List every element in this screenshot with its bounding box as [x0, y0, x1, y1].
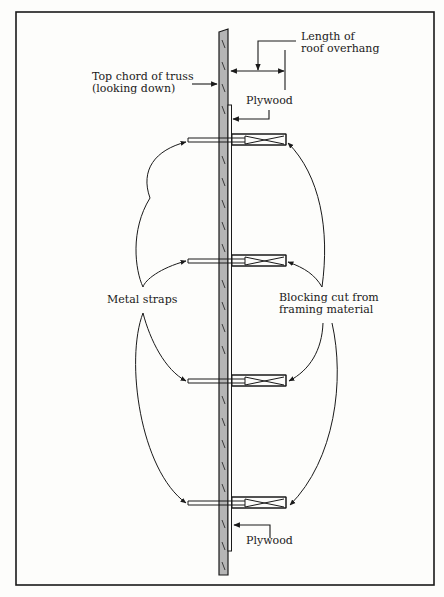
strap-and-block-4 — [188, 497, 286, 508]
metal-straps-label: Metal straps — [107, 294, 177, 306]
plywood-top-label: Plywood — [246, 95, 293, 107]
overhang-dimension — [231, 41, 296, 90]
plywood-sheet — [228, 105, 232, 551]
blocking-arrows — [150, 143, 337, 505]
overhang-label: Length of roof overhang — [301, 31, 379, 55]
strap-and-block-1 — [188, 134, 286, 145]
plywood-bottom-label: Plywood — [246, 535, 293, 547]
blocking-label: Blocking cut from framing material — [279, 292, 379, 316]
plywood-top-pointer-arrow — [233, 110, 269, 119]
metal-strap-arrows — [127, 142, 186, 503]
truss-top-chord — [219, 29, 228, 575]
strap-and-block-3 — [188, 375, 286, 386]
strap-and-block-2 — [188, 255, 286, 266]
top-chord-label: Top chord of truss (looking down) — [92, 71, 194, 95]
